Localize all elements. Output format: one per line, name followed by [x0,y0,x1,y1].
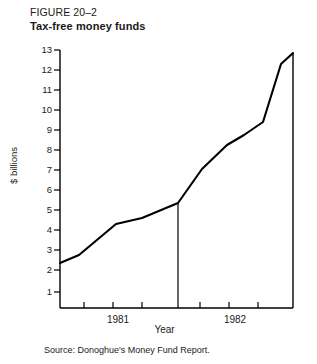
y-tick-marks [54,50,60,292]
x-tick-marks [84,302,258,308]
figure-container: FIGURE 20–2 Tax-free money funds $ billi… [0,0,317,364]
chart-plot [0,0,317,364]
data-line-tax-free-money-funds [60,53,293,263]
